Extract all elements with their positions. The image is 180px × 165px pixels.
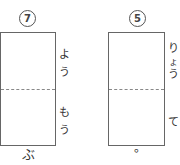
kana: う (57, 66, 71, 79)
kana-below: 。 (133, 142, 147, 155)
kana: よ (57, 48, 71, 61)
divider-line (109, 89, 164, 90)
kana: う (166, 68, 180, 81)
kana-below: ぶ (21, 148, 35, 161)
problem-number-badge: 5 (129, 10, 146, 27)
kana: て (166, 116, 180, 129)
answer-box[interactable] (108, 32, 165, 146)
divider-line (1, 89, 55, 90)
problem-number-badge: 7 (19, 10, 36, 27)
answer-box[interactable] (0, 32, 56, 146)
kana: も (57, 106, 71, 119)
kana: う (57, 124, 71, 137)
kana: り (166, 42, 180, 55)
